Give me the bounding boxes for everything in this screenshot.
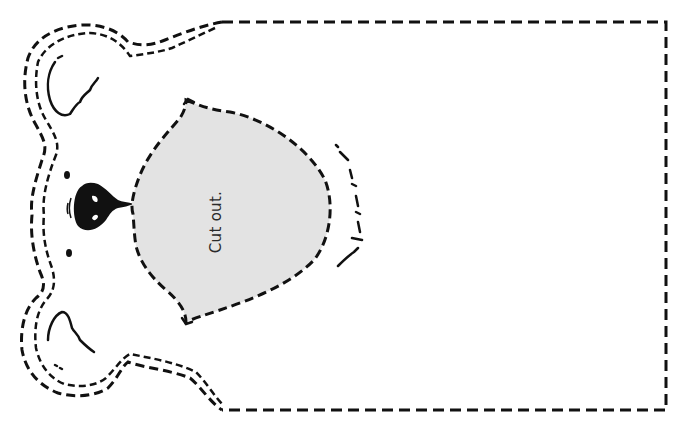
cut-out-label: Cut out. <box>207 191 225 253</box>
bottom-ear-dots <box>55 365 62 369</box>
bottom-ear <box>48 312 94 352</box>
top-ear-tick <box>58 56 62 58</box>
mouth-cutout-region <box>132 100 330 322</box>
eye-bottom <box>66 249 72 257</box>
top-ear <box>48 62 98 115</box>
eye-top <box>64 171 70 179</box>
template-drawing <box>0 0 682 429</box>
nose-side-lines <box>67 198 71 218</box>
nose <box>74 183 134 231</box>
muzzle-fur-line <box>336 145 362 266</box>
bear-puppet-template: Cut out. <box>0 0 682 429</box>
